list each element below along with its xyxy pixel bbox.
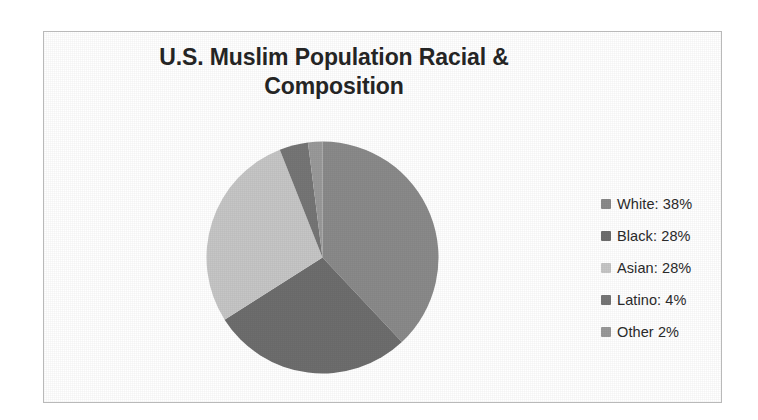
chart-title-line-2: Composition	[94, 72, 574, 101]
legend-item-black[interactable]: Black: 28%	[601, 220, 721, 252]
legend-item-asian[interactable]: Asian: 28%	[601, 252, 721, 284]
legend-label-asian: Asian: 28%	[617, 260, 691, 276]
chart-frame: U.S. Muslim Population Racial & Composit…	[43, 31, 722, 403]
legend-swatch-asian	[601, 263, 611, 273]
legend-item-other[interactable]: Other 2%	[601, 316, 721, 348]
legend-label-latino: Latino: 4%	[617, 292, 687, 308]
legend-swatch-white	[601, 199, 611, 209]
chart-title: U.S. Muslim Population Racial & Composit…	[94, 43, 574, 102]
legend-swatch-latino	[601, 295, 611, 305]
chart-legend: White: 38% Black: 28% Asian: 28% Latino:…	[601, 188, 721, 348]
legend-swatch-other	[601, 327, 611, 337]
pie-svg	[206, 141, 439, 374]
legend-label-white: White: 38%	[617, 196, 692, 212]
chart-title-line-1: U.S. Muslim Population Racial &	[94, 43, 574, 72]
legend-swatch-black	[601, 231, 611, 241]
legend-item-white[interactable]: White: 38%	[601, 188, 721, 220]
pie-chart	[206, 141, 439, 374]
legend-label-other: Other 2%	[617, 324, 679, 340]
legend-item-latino[interactable]: Latino: 4%	[601, 284, 721, 316]
legend-label-black: Black: 28%	[617, 228, 691, 244]
plot-area	[164, 111, 444, 391]
